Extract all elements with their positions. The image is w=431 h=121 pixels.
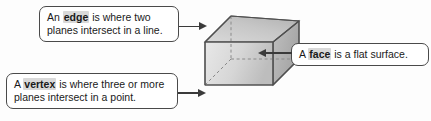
callout-vertex[interactable]: A vertex is where three or more planes i… <box>6 73 178 109</box>
keyword-vertex: vertex <box>23 78 56 90</box>
callout-edge-line2: planes intersect in a line. <box>47 24 171 37</box>
callout-face-text-after: is a flat surface. <box>331 48 407 60</box>
callout-vertex-text-before: A <box>14 78 23 90</box>
callout-vertex-text-after: is where three or more <box>56 78 164 90</box>
arrowhead-face-icon <box>258 49 266 57</box>
connector-face <box>266 52 292 54</box>
connector-vertex <box>178 92 200 94</box>
keyword-edge: edge <box>63 11 90 23</box>
callout-face-line1: A face is a flat surface. <box>299 48 421 61</box>
cube-figure <box>196 9 304 117</box>
callout-vertex-line2: planes intersect in a point. <box>14 91 170 104</box>
callout-face-text-before: A <box>299 48 308 60</box>
callout-face[interactable]: A face is a flat surface. <box>291 43 429 66</box>
diagram-canvas: An edge is where two planes intersect in… <box>0 0 431 121</box>
connector-edge <box>179 26 201 28</box>
callout-edge-line1: An edge is where two <box>47 11 171 24</box>
cube-svg <box>196 9 304 113</box>
arrowhead-vertex-icon <box>198 89 206 97</box>
callout-edge-text-after: is where two <box>89 11 150 23</box>
callout-vertex-line1: A vertex is where three or more <box>14 78 170 91</box>
keyword-face: face <box>308 48 331 60</box>
callout-edge[interactable]: An edge is where two planes intersect in… <box>39 6 179 42</box>
callout-edge-text-before: An <box>47 11 63 23</box>
arrowhead-edge-icon <box>199 22 207 30</box>
